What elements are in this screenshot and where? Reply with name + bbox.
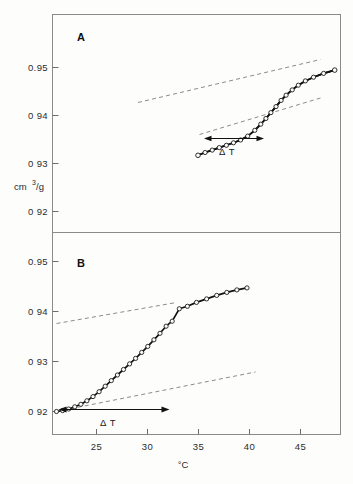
panel-a-data-curve (198, 70, 335, 155)
panel-a-yticklabel-2: 0 93 (28, 158, 48, 169)
xticklabel-3: 40 (244, 441, 255, 452)
y-axis-title-base: cm (14, 181, 27, 192)
panel-a-delta-t-label: Δ T (219, 146, 235, 157)
panel-b: B 0.95 0 94 0 93 0 92 (28, 256, 256, 428)
panel-a-y-ticks (53, 68, 59, 212)
panel-a-delta-t-annotation: Δ T (204, 136, 264, 157)
y-axis-title: cm 3 /g (14, 179, 44, 192)
panel-a-yticklabel-1: 0 94 (28, 110, 48, 121)
panel-b-letter: B (77, 257, 85, 269)
panel-a: A 0.95 0 94 0 93 0 92 cm 3 /g (14, 31, 337, 217)
xticklabel-1: 30 (142, 441, 153, 452)
axes-frame (53, 15, 341, 435)
xticklabel-2: 35 (193, 441, 204, 452)
panel-b-yticklabel-3: 0 92 (28, 406, 48, 417)
panel-a-yticklabel-0: 0.95 (28, 62, 48, 73)
panel-b-y-ticks (53, 262, 59, 412)
panel-a-letter: A (77, 31, 85, 43)
y-axis-title-tail: /g (36, 181, 44, 192)
panel-b-delta-t-annotation: Δ T (59, 407, 170, 428)
panel-a-delta-t-arrowhead-right (257, 136, 265, 141)
x-axis: 25 30 35 40 45 °C (91, 429, 306, 470)
panel-b-lower-tangent (57, 372, 256, 412)
xticklabel-0: 25 (91, 441, 102, 452)
panel-b-yticklabel-1: 0 94 (28, 306, 48, 317)
panel-b-yticklabel-0: 0.95 (28, 256, 48, 267)
panel-a-upper-tangent (138, 60, 321, 103)
xticklabel-4: 45 (295, 441, 306, 452)
x-axis-title: °C (178, 459, 189, 470)
chart-svg: A 0.95 0 94 0 93 0 92 cm 3 /g (0, 0, 353, 484)
panel-a-lower-tangent (200, 98, 321, 135)
panel-a-yticklabel-3: 0 92 (28, 206, 48, 217)
panel-a-data-points (196, 68, 337, 158)
panel-a-delta-t-arrowhead-left (204, 136, 212, 141)
panel-b-yticklabel-2: 0 93 (28, 356, 48, 367)
panel-b-delta-t-arrowhead-right (162, 407, 170, 413)
panel-b-data-points (54, 286, 249, 414)
panel-a-data-curve-tail (198, 70, 335, 155)
figure-container: A 0.95 0 94 0 93 0 92 cm 3 /g (0, 0, 353, 484)
panel-b-upper-tangent (57, 303, 177, 324)
panel-b-delta-t-label: Δ T (100, 417, 116, 428)
plot-frame-rect (53, 15, 341, 435)
